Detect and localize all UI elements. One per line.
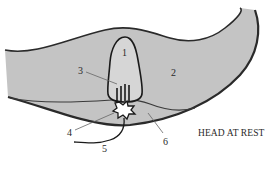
label-1: 1	[122, 47, 127, 58]
label-2: 2	[171, 67, 176, 78]
diagram-caption: HEAD AT REST	[198, 128, 265, 138]
label-4: 4	[67, 127, 72, 138]
label-5: 5	[102, 143, 107, 154]
vestibular-hair-cell-diagram: 1 2 3 4 5 6 HEAD AT REST	[0, 0, 277, 176]
label-6: 6	[163, 136, 168, 147]
label-3: 3	[78, 65, 83, 76]
